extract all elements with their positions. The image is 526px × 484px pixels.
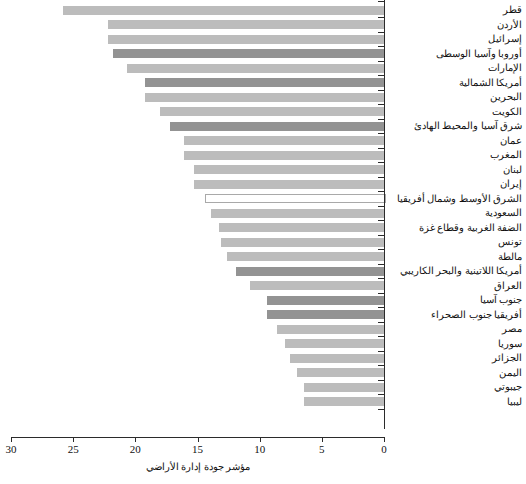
- category-label: تونس: [390, 235, 522, 250]
- y-axis-tick: [378, 235, 384, 236]
- bar: [194, 165, 384, 174]
- bar: [304, 383, 384, 392]
- x-axis-tick-label: 10: [245, 443, 275, 455]
- category-label: السعودية: [390, 206, 522, 221]
- bar: [277, 325, 384, 334]
- category-label: اليمن: [390, 366, 522, 381]
- bar: [170, 122, 384, 131]
- x-axis-tick: [135, 437, 136, 442]
- category-label: أمريكا اللاتينية والبحر الكاريبي: [390, 264, 522, 279]
- y-axis-tick: [378, 119, 384, 120]
- x-axis-tick: [11, 437, 12, 442]
- x-axis-tick-label: 15: [183, 443, 213, 455]
- bar: [221, 238, 384, 247]
- y-axis-tick: [378, 133, 384, 134]
- x-axis-tick: [322, 437, 323, 442]
- y-axis-tick: [378, 46, 384, 47]
- x-axis-title: مؤشر جودة إدارة الأراضي: [0, 461, 396, 472]
- category-label: جنوب آسيا: [390, 293, 522, 308]
- plot-area: قطرالأردنإسرائيلأوروبا وآسيا الوسطىالإما…: [0, 0, 526, 440]
- y-axis-tick: [378, 394, 384, 395]
- y-axis-tick: [378, 409, 384, 410]
- bar: [113, 49, 384, 58]
- bar: [184, 151, 384, 160]
- y-axis-tick: [378, 75, 384, 76]
- category-label: أمريكا الشمالية: [390, 76, 522, 91]
- category-label: الشرق الأوسط وشمال أفريقيا: [390, 192, 522, 207]
- y-axis-tick: [378, 148, 384, 149]
- bar: [194, 180, 384, 189]
- bar: [211, 209, 384, 218]
- category-label: أوروبا وآسيا الوسطى: [390, 47, 522, 62]
- x-axis-tick: [73, 437, 74, 442]
- y-axis-tick: [378, 278, 384, 279]
- x-axis-tick: [260, 437, 261, 442]
- bar: [227, 252, 384, 261]
- bar: [160, 107, 384, 116]
- y-axis-tick: [378, 220, 384, 221]
- x-axis-tick: [384, 437, 385, 442]
- category-label: لبنان: [390, 163, 522, 178]
- category-label: الكويت: [390, 105, 522, 120]
- x-axis-tick: [198, 437, 199, 442]
- category-label: العراق: [390, 279, 522, 294]
- y-axis-tick: [378, 307, 384, 308]
- y-axis-tick: [378, 177, 384, 178]
- bar: [236, 267, 384, 276]
- bar: [145, 78, 384, 87]
- category-label: مالطة: [390, 250, 522, 265]
- y-axis-tick: [378, 61, 384, 62]
- y-axis-tick: [378, 162, 384, 163]
- bar: [267, 310, 384, 319]
- y-axis-tick: [378, 322, 384, 323]
- y-axis-tick: [378, 206, 384, 207]
- bar: [304, 397, 384, 406]
- category-label: جيبوتي: [390, 380, 522, 395]
- category-label: أفريقيا جنوب الصحراء: [390, 308, 522, 323]
- y-axis-tick: [378, 191, 384, 192]
- category-label: المغرب: [390, 148, 522, 163]
- y-axis-tick: [378, 351, 384, 352]
- bar: [145, 93, 384, 102]
- y-axis-tick: [378, 90, 384, 91]
- x-axis-tick-label: 20: [120, 443, 150, 455]
- x-axis-tick-label: 0: [369, 443, 399, 455]
- bar: [108, 35, 384, 44]
- bar: [108, 20, 384, 29]
- bar: [127, 64, 384, 73]
- bar: [184, 136, 384, 145]
- category-label: قطر: [390, 3, 522, 18]
- y-axis-tick: [378, 293, 384, 294]
- bar: [205, 194, 386, 203]
- x-axis-tick-label: 5: [307, 443, 337, 455]
- category-label: شرق آسيا والمحيط الهادئ: [390, 119, 522, 134]
- category-label: الجزائر: [390, 351, 522, 366]
- category-label: إسرائيل: [390, 32, 522, 47]
- x-axis-tick-label: 30: [0, 443, 26, 455]
- category-label: الأردن: [390, 18, 522, 33]
- y-axis-tick: [378, 17, 384, 18]
- category-label: إيران: [390, 177, 522, 192]
- category-label: عمان: [390, 134, 522, 149]
- y-axis-tick: [378, 380, 384, 381]
- y-axis-tick: [378, 249, 384, 250]
- category-label: ليبيا: [390, 395, 522, 410]
- category-label: مصر: [390, 322, 522, 337]
- category-label: البحرين: [390, 90, 522, 105]
- bar: [267, 296, 384, 305]
- category-label: الضفة الغربية وقطاع غزة: [390, 221, 522, 236]
- y-axis-tick: [378, 336, 384, 337]
- bar: [297, 368, 384, 377]
- bar: [219, 223, 384, 232]
- bar: [250, 281, 384, 290]
- bar: [63, 6, 384, 15]
- bar: [285, 339, 384, 348]
- y-axis-tick: [378, 264, 384, 265]
- bar: [290, 354, 384, 363]
- y-axis-tick: [378, 104, 384, 105]
- x-axis-tick-label: 25: [58, 443, 88, 455]
- y-axis-tick: [378, 365, 384, 366]
- y-axis-tick: [378, 1, 384, 2]
- land-management-quality-bar-chart: قطرالأردنإسرائيلأوروبا وآسيا الوسطىالإما…: [0, 0, 526, 484]
- y-axis-line: [384, 0, 385, 429]
